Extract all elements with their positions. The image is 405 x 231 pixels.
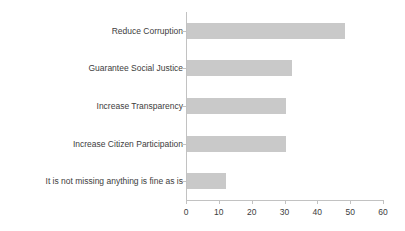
bar-container	[187, 98, 286, 114]
x-axis-tick-label: 60	[368, 207, 398, 218]
category-label: Increase Citizen Participation	[0, 139, 183, 149]
bar-row: Guarantee Social Justice	[0, 50, 405, 88]
bar	[187, 136, 286, 152]
x-axis-tick-label: 10	[204, 207, 234, 218]
y-axis-tick	[182, 68, 186, 69]
bar-container	[187, 136, 286, 152]
bar-chart: Reduce CorruptionGuarantee Social Justic…	[0, 0, 405, 231]
bar-row: Increase Citizen Participation	[0, 125, 405, 163]
category-label: Guarantee Social Justice	[0, 63, 183, 73]
x-axis-tick	[186, 200, 187, 204]
x-axis-tick-label: 50	[335, 207, 365, 218]
bar	[187, 173, 226, 189]
y-axis-tick	[182, 31, 186, 32]
x-axis-tick	[252, 200, 253, 204]
y-axis-tick	[182, 181, 186, 182]
bar-row: It is not missing anything is fine as is	[0, 162, 405, 200]
bar	[187, 60, 292, 76]
bar-container	[187, 23, 345, 39]
y-axis-tick	[182, 144, 186, 145]
category-label: Increase Transparency	[0, 101, 183, 111]
x-axis-tick-label: 40	[302, 207, 332, 218]
chart-rows: Reduce CorruptionGuarantee Social Justic…	[0, 12, 405, 200]
category-label: It is not missing anything is fine as is	[0, 176, 183, 186]
x-axis-tick-label: 20	[237, 207, 267, 218]
category-label: Reduce Corruption	[0, 26, 183, 36]
x-axis-tick	[383, 200, 384, 204]
bar-container	[187, 173, 226, 189]
x-axis-tick-label: 0	[171, 207, 201, 218]
bar-row: Increase Transparency	[0, 87, 405, 125]
bar	[187, 98, 286, 114]
x-axis-tick	[219, 200, 220, 204]
y-axis-tick	[182, 106, 186, 107]
bar	[187, 23, 345, 39]
x-axis-tick-label: 30	[270, 207, 300, 218]
bar-container	[187, 60, 292, 76]
x-axis-tick	[317, 200, 318, 204]
x-axis-tick	[285, 200, 286, 204]
x-axis-tick	[350, 200, 351, 204]
bar-row: Reduce Corruption	[0, 12, 405, 50]
